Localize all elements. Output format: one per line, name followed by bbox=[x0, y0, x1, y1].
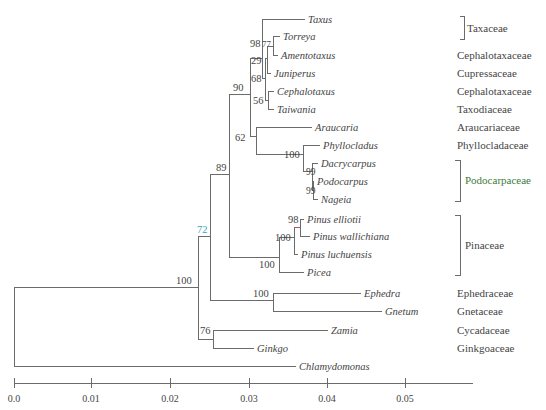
taxon-label: Torreya bbox=[283, 31, 315, 42]
family-label: Gnetaceae bbox=[457, 305, 503, 317]
bootstrap-label: 100 bbox=[284, 149, 300, 160]
taxon-label: Nageia bbox=[320, 194, 351, 205]
family-label: Cycadaceae bbox=[457, 324, 510, 336]
taxon-label: Pinus elliotii bbox=[306, 214, 361, 225]
axis-tick-label: 0.05 bbox=[396, 393, 414, 404]
bootstrap-label: 89 bbox=[216, 162, 227, 173]
taxon-label: Phyllocladus bbox=[322, 140, 378, 151]
bootstrap-values: 100 72 89 90 98 77 29 68 56 62 100 99 99… bbox=[176, 38, 316, 336]
bootstrap-label: 99 bbox=[306, 186, 316, 196]
taxon-label: Amentotaxus bbox=[280, 50, 335, 61]
family-label: Pinaceae bbox=[465, 239, 504, 251]
family-label: Taxaceae bbox=[467, 22, 508, 34]
taxon-label: Taxus bbox=[308, 14, 332, 25]
taxon-label: Podocarpus bbox=[316, 176, 368, 187]
taxon-label: Pinus luchuensis bbox=[300, 249, 372, 260]
bracket-pinaceae bbox=[455, 215, 460, 275]
bootstrap-label: 76 bbox=[200, 325, 211, 336]
bootstrap-label: 100 bbox=[259, 259, 275, 270]
bootstrap-label: 99 bbox=[306, 167, 316, 177]
family-label: Cupressaceae bbox=[457, 67, 517, 79]
family-label: Cephalotaxaceae bbox=[457, 85, 532, 97]
bootstrap-label: 62 bbox=[235, 132, 246, 143]
axis-tick-label: 0.01 bbox=[82, 393, 100, 404]
family-label: Ephedraceae bbox=[457, 287, 513, 299]
axis-tick-label: 0.02 bbox=[161, 393, 179, 404]
bracket-podocarpaceae bbox=[455, 160, 460, 201]
bootstrap-label: 100 bbox=[253, 288, 269, 299]
family-label: Araucariaceae bbox=[457, 121, 520, 133]
bootstrap-label: 98 bbox=[288, 214, 299, 225]
family-label: Taxodiaceae bbox=[457, 103, 512, 115]
taxon-labels: Taxus Torreya Amentotaxus Juniperus Ceph… bbox=[257, 14, 419, 372]
bootstrap-label: 90 bbox=[233, 82, 244, 93]
taxon-label: Gnetum bbox=[385, 306, 419, 317]
bootstrap-label: 72 bbox=[197, 224, 208, 235]
taxon-label: Pinus wallichiana bbox=[312, 231, 389, 242]
taxon-label: Picea bbox=[306, 267, 331, 278]
tree-branches bbox=[14, 19, 382, 366]
family-label: Cephalotaxaceae bbox=[457, 49, 532, 61]
bracket-taxaceae bbox=[460, 16, 464, 39]
taxon-label: Taiwania bbox=[277, 104, 316, 115]
taxon-label: Zamia bbox=[331, 325, 358, 336]
bootstrap-label: 98 bbox=[250, 38, 261, 49]
bootstrap-label: 77 bbox=[262, 39, 272, 49]
taxon-label: Ephedra bbox=[363, 288, 400, 299]
phylogenetic-tree: Taxus Torreya Amentotaxus Juniperus Ceph… bbox=[0, 0, 546, 410]
family-labels: Taxaceae Cephalotaxaceae Cupressaceae Ce… bbox=[455, 16, 532, 354]
bootstrap-label: 100 bbox=[176, 275, 192, 286]
family-label: Podocarpaceae bbox=[465, 174, 531, 186]
bootstrap-label: 68 bbox=[251, 73, 262, 84]
taxon-label: Dacrycarpus bbox=[320, 158, 376, 169]
bootstrap-label: 56 bbox=[253, 95, 264, 106]
scale-axis: 0.0 0.01 0.02 0.03 0.04 0.05 bbox=[8, 378, 473, 404]
axis-tick-label: 0.03 bbox=[240, 393, 258, 404]
taxon-label: Ginkgo bbox=[257, 343, 288, 354]
family-label: Phyllocladaceae bbox=[457, 139, 529, 151]
taxon-label: Juniperus bbox=[274, 68, 315, 79]
bootstrap-label: 100 bbox=[275, 232, 291, 243]
bootstrap-label: 29 bbox=[251, 55, 262, 66]
axis-tick-label: 0.0 bbox=[8, 393, 21, 404]
taxon-label: Cephalotaxus bbox=[277, 86, 335, 97]
taxon-label: Chlamydomonas bbox=[299, 361, 370, 372]
taxon-label: Araucaria bbox=[314, 122, 358, 133]
axis-tick-label: 0.04 bbox=[318, 393, 336, 404]
family-label: Ginkgoaceae bbox=[457, 342, 515, 354]
